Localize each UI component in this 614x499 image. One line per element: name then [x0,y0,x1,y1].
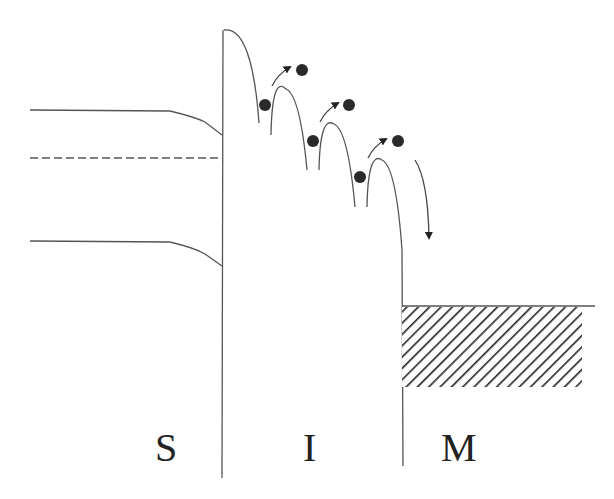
barrier-4 [367,159,402,250]
electron-icon [307,135,319,147]
hop-arrow-icon [320,103,338,122]
electron-icon [392,135,404,147]
barrier-2 [271,86,307,170]
valence-band-line [30,241,222,266]
region-label-semiconductor: S [155,428,177,468]
barrier-3 [319,123,355,207]
electron-icon [343,99,355,111]
semiconductor-bands [30,110,222,266]
hop-arrow-icon [368,139,386,158]
electron-icon [259,99,271,111]
hop-arrow-icon [272,67,290,86]
insulator-barriers [224,30,403,466]
barrier-1 [224,30,259,123]
region-label-insulator: I [303,428,316,468]
drop-arrow-icon [415,160,429,238]
region-label-metal: M [441,428,477,468]
electron-icon [354,171,366,183]
hop-arrows [272,67,429,238]
semiconductor-insulator-interface [222,30,223,478]
electron-icon [296,64,308,76]
metal-filled-states [402,307,582,387]
conduction-band-line [30,110,222,135]
